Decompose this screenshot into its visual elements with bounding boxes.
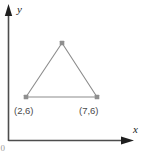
apex-vertex-marker — [60, 41, 65, 46]
triangle-shape — [26, 43, 97, 97]
diagram-canvas: y x 0 (2,6) (7,6) — [0, 0, 152, 154]
x-axis — [9, 137, 135, 145]
bottom-right-vertex-marker — [95, 95, 100, 100]
bottom-right-vertex-label: (7,6) — [79, 105, 99, 116]
coordinate-plane-diagram: y x 0 (2,6) (7,6) — [0, 0, 152, 154]
y-axis-arrowhead — [5, 4, 12, 16]
bottom-left-vertex-marker — [24, 95, 29, 100]
bottom-left-vertex-label: (2,6) — [14, 105, 34, 116]
x-axis-arrowhead — [121, 137, 134, 145]
y-axis — [5, 4, 12, 141]
x-axis-label: x — [132, 123, 138, 135]
origin-label: 0 — [1, 143, 6, 153]
y-axis-label: y — [16, 3, 22, 15]
